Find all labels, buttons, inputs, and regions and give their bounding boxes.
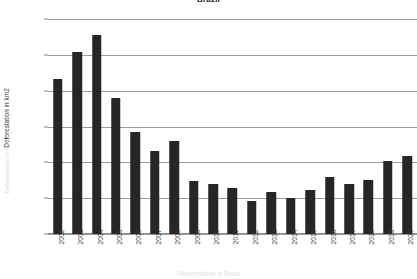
y-axis-title-ghost: Deforestation in km2 bbox=[4, 138, 10, 193]
y-axis-tick-mark bbox=[44, 126, 48, 127]
x-axis-tick-label: 2007 bbox=[155, 230, 162, 245]
x-axis-tick: 2005 bbox=[106, 236, 125, 264]
x-axis-tick: 2014 bbox=[281, 236, 300, 264]
bar-slot bbox=[359, 19, 378, 234]
bar[interactable] bbox=[53, 79, 63, 234]
x-axis-tick: 2009 bbox=[184, 236, 203, 264]
bar-slot bbox=[203, 19, 222, 234]
x-axis-tick: 2012 bbox=[242, 236, 261, 264]
bar[interactable] bbox=[364, 180, 374, 234]
x-axis-tick: 2010 bbox=[203, 236, 222, 264]
bar[interactable] bbox=[228, 188, 238, 234]
x-axis-tick-label: 2017 bbox=[349, 230, 356, 245]
bar[interactable] bbox=[344, 184, 354, 234]
bar-slot bbox=[281, 19, 300, 234]
x-axis-tick-label: 2013 bbox=[271, 230, 278, 245]
bar-slot bbox=[184, 19, 203, 234]
x-axis-tick: 2020 bbox=[398, 236, 417, 264]
chart-title: Brazil bbox=[0, 0, 417, 5]
bar-series bbox=[48, 19, 417, 234]
x-axis-tick: 2004 bbox=[87, 236, 106, 264]
x-axis-tick-label: 2003 bbox=[77, 230, 84, 245]
y-axis-tick-mark bbox=[44, 198, 48, 199]
x-axis-tick-label: 2020 bbox=[407, 230, 414, 245]
bar[interactable] bbox=[169, 141, 179, 234]
x-axis-tick-label: 2006 bbox=[135, 230, 142, 245]
x-axis-tick: 2007 bbox=[145, 236, 164, 264]
bar-slot bbox=[106, 19, 125, 234]
bar-slot bbox=[262, 19, 281, 234]
bar-slot bbox=[339, 19, 358, 234]
x-axis-labels: 2002200320042005200620072008200920102011… bbox=[48, 236, 417, 264]
x-axis-tick-label: 2012 bbox=[252, 230, 259, 245]
x-axis-tick: 2013 bbox=[262, 236, 281, 264]
x-axis-tick: 2015 bbox=[300, 236, 319, 264]
bar[interactable] bbox=[208, 184, 218, 234]
x-axis-tick-label: 2015 bbox=[310, 230, 317, 245]
bar[interactable] bbox=[131, 132, 141, 234]
x-axis-tick-label: 2004 bbox=[97, 230, 104, 245]
bar-slot bbox=[67, 19, 86, 234]
bar[interactable] bbox=[383, 161, 393, 234]
bar-slot bbox=[300, 19, 319, 234]
y-axis-tick-mark bbox=[44, 54, 48, 55]
bar-slot bbox=[378, 19, 397, 234]
x-axis-tick: 2017 bbox=[339, 236, 358, 264]
y-axis-tick-mark bbox=[44, 90, 48, 91]
x-axis-tick-label: 2018 bbox=[368, 230, 375, 245]
x-axis-tick-label: 2016 bbox=[330, 230, 337, 245]
figure-caption: Deforestation in Brazil bbox=[0, 270, 417, 279]
y-axis-tick-mark bbox=[44, 234, 48, 235]
x-axis-tick: 2011 bbox=[223, 236, 242, 264]
bar-slot bbox=[320, 19, 339, 234]
x-axis-tick: 2002 bbox=[48, 236, 67, 264]
bar-slot bbox=[87, 19, 106, 234]
bar[interactable] bbox=[267, 192, 277, 234]
bar[interactable] bbox=[92, 35, 102, 234]
bar-slot bbox=[223, 19, 242, 234]
bar-slot bbox=[145, 19, 164, 234]
bar[interactable] bbox=[189, 181, 199, 234]
bar[interactable] bbox=[72, 52, 82, 234]
x-axis-tick-label: 2010 bbox=[213, 230, 220, 245]
x-axis-tick: 2019 bbox=[378, 236, 397, 264]
x-axis-tick: 2018 bbox=[359, 236, 378, 264]
bar-slot bbox=[48, 19, 67, 234]
bar[interactable] bbox=[305, 190, 315, 235]
bar-slot bbox=[165, 19, 184, 234]
x-axis-tick-label: 2009 bbox=[194, 230, 201, 245]
bar[interactable] bbox=[325, 177, 335, 234]
x-axis-tick: 2008 bbox=[165, 236, 184, 264]
x-axis-tick: 2006 bbox=[126, 236, 145, 264]
bar[interactable] bbox=[150, 151, 160, 234]
bar[interactable] bbox=[111, 98, 121, 234]
x-axis-tick-label: 2005 bbox=[116, 230, 123, 245]
bar-slot bbox=[398, 19, 417, 234]
x-axis-tick-label: 2011 bbox=[232, 230, 239, 244]
y-axis-tick-mark bbox=[44, 162, 48, 163]
bar[interactable] bbox=[403, 156, 413, 234]
x-axis-tick-label: 2014 bbox=[291, 230, 298, 245]
plot-area bbox=[48, 19, 417, 234]
x-axis-tick: 2003 bbox=[67, 236, 86, 264]
x-axis-tick-label: 2008 bbox=[174, 230, 181, 245]
bar-slot bbox=[126, 19, 145, 234]
bar-slot bbox=[242, 19, 261, 234]
x-axis-tick-label: 2019 bbox=[388, 230, 395, 245]
x-axis-tick: 2016 bbox=[320, 236, 339, 264]
y-axis-tick-mark bbox=[44, 19, 48, 20]
x-axis-tick-label: 2002 bbox=[58, 230, 65, 245]
